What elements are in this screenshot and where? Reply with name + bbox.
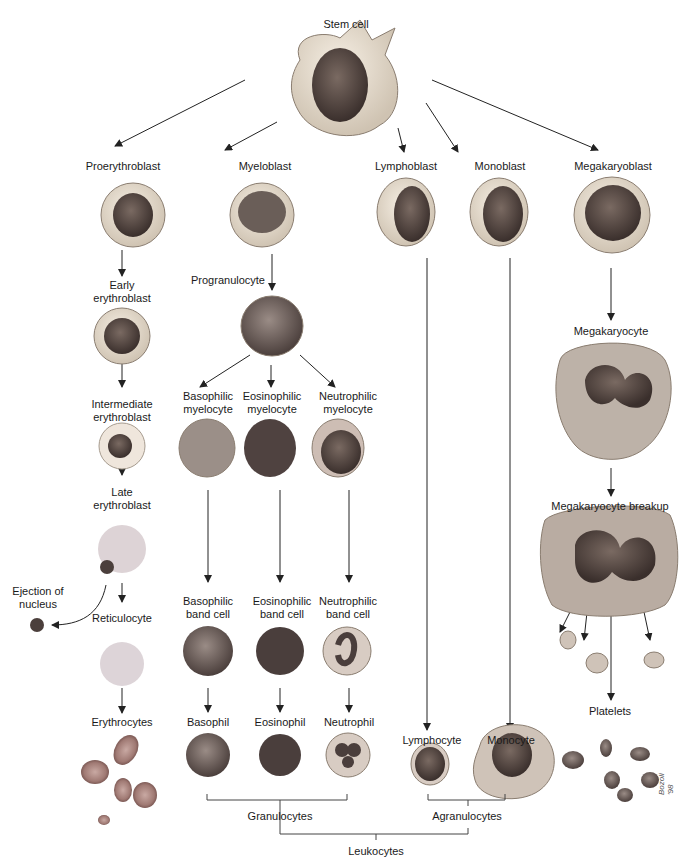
erythrocytes-label: Erythrocytes [91, 716, 152, 729]
megakaryocyte-label: Megakaryocyte [574, 325, 649, 338]
erythroid-cells [30, 308, 157, 825]
diagram-drawing [0, 0, 682, 866]
agranulocyte-arrows [427, 258, 510, 730]
leukocytes-label: Leukocytes [348, 845, 404, 858]
progranulocyte-label: Progranulocyte [191, 274, 265, 287]
neutrophil-label: Neutrophil [324, 716, 374, 729]
early-erythroblast-label: Early erythroblast [93, 279, 150, 305]
megakaryoblast-label: Megakaryoblast [574, 160, 652, 173]
reticulocyte-label: Reticulocyte [92, 612, 152, 625]
eosinophil-label: Eosinophil [255, 716, 306, 729]
intermediate-erythroblast-label: Intermediate erythroblast [91, 398, 152, 424]
lymphoblast-label: Lymphoblast [375, 160, 437, 173]
megakaryocytic-cells [540, 343, 677, 802]
monoblast-label: Monoblast [475, 160, 526, 173]
granulocytes-label: Granulocytes [248, 810, 313, 823]
basophilic-band-cell-label: Basophilic band cell [183, 595, 233, 621]
monocyte-label: Monocyte [487, 734, 535, 747]
late-erythroblast-label: Late erythroblast [93, 486, 150, 512]
stem-cell-label: Stem cell [323, 18, 368, 31]
proerythroblast-label: Proerythroblast [86, 160, 161, 173]
megakaryocyte-breakup-label: Megakaryocyte breakup [551, 500, 668, 513]
neutrophilic-band-cell-label: Neutrophilic band cell [319, 595, 377, 621]
eosinophilic-band-cell-label: Eosinophilic band cell [253, 595, 312, 621]
basophilic-myelocyte-label: Basophilic myelocyte [183, 390, 233, 416]
eosinophilic-myelocyte-label: Eosinophilic myelocyte [243, 390, 302, 416]
stem-cell-illustration [291, 20, 397, 136]
neutrophilic-myelocyte-label: Neutrophilic myelocyte [319, 390, 377, 416]
blast-cells [101, 177, 650, 253]
ejection-of-nucleus-label: Ejection of nucleus [12, 585, 63, 611]
lymphocyte-label: Lymphocyte [403, 734, 462, 747]
basophil-label: Basophil [187, 716, 229, 729]
artist-signature: Bozoli '98 [657, 763, 675, 795]
platelets-label: Platelets [589, 705, 631, 718]
myeloblast-label: Myeloblast [239, 160, 292, 173]
agranulocytes-label: Agranulocytes [432, 810, 502, 823]
